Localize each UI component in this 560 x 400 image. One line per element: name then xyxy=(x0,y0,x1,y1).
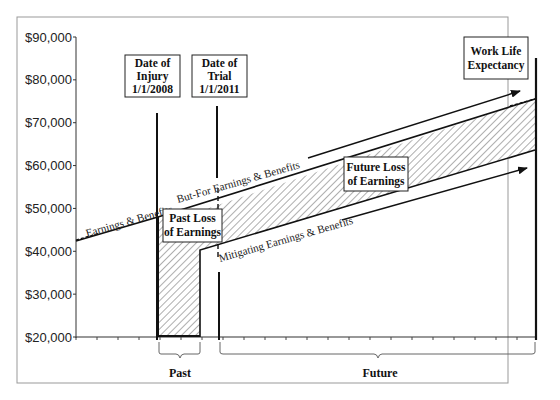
y-tick-label: $50,000 xyxy=(25,201,72,216)
svg-text:of Earnings: of Earnings xyxy=(347,175,405,188)
date-of-trial-box: Date of Trial 1/1/2011 xyxy=(192,55,247,97)
y-tick-label: $30,000 xyxy=(25,287,72,302)
svg-text:Past Loss: Past Loss xyxy=(169,212,216,224)
svg-text:of Earnings: of Earnings xyxy=(164,226,222,239)
y-tick-label: $70,000 xyxy=(25,115,72,130)
y-tick-label: $80,000 xyxy=(25,72,72,87)
svg-text:Date of: Date of xyxy=(135,57,171,69)
svg-text:Trial: Trial xyxy=(207,70,231,82)
y-tick-label: $40,000 xyxy=(25,244,72,259)
svg-text:Work Life: Work Life xyxy=(471,45,522,57)
svg-text:Date of: Date of xyxy=(202,57,238,69)
y-tick-label: $60,000 xyxy=(25,158,72,173)
work-life-expectancy-box: Work Life Expectancy xyxy=(464,37,528,79)
y-tick-label: $90,000 xyxy=(25,30,72,45)
past-loss-box: Past Loss of Earnings xyxy=(163,209,222,242)
svg-text:1/1/2011: 1/1/2011 xyxy=(199,83,240,95)
future-label: Future xyxy=(362,366,398,380)
past-label: Past xyxy=(169,366,191,380)
svg-text:Expectancy: Expectancy xyxy=(468,59,525,72)
svg-text:1/1/2008: 1/1/2008 xyxy=(132,83,173,95)
date-of-injury-box: Date of Injury 1/1/2008 xyxy=(125,55,180,97)
future-loss-box: Future Loss of Earnings xyxy=(344,157,408,191)
economic-loss-diagram: $90,000$80,000$70,000$60,000$50,000$40,0… xyxy=(0,0,560,400)
y-tick-label: $20,000 xyxy=(25,330,72,345)
svg-text:Future Loss: Future Loss xyxy=(347,161,406,173)
svg-text:Injury: Injury xyxy=(137,70,169,83)
